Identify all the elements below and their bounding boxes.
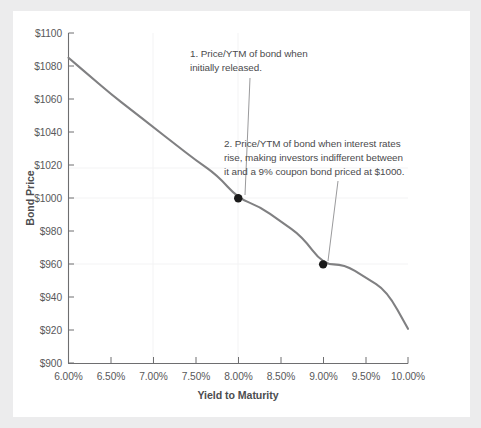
x-tick-label: 6.50%: [97, 371, 125, 382]
y-axis-ticks: [69, 33, 75, 363]
x-tick-label: 7.50%: [182, 371, 210, 382]
annotation-1: 1. Price/YTM of bond when initially rele…: [190, 48, 308, 73]
chart-canvas: $1100 $1080 $1060 $1040 $1020 $1000 $980…: [0, 0, 481, 428]
x-tick-label: 9.50%: [352, 371, 380, 382]
y-tick-label: $1100: [35, 28, 63, 39]
y-tick-label: $1020: [34, 160, 62, 171]
y-tick-label: $1080: [34, 61, 62, 72]
annotation-2-line: 2. Price/YTM of bond when interest rates: [224, 138, 401, 149]
x-tick-label: 7.00%: [139, 371, 167, 382]
x-tick-label: 6.00%: [54, 371, 82, 382]
y-tick-label: $1000: [34, 193, 62, 204]
bond-price-yield-chart: $1100 $1080 $1060 $1040 $1020 $1000 $980…: [0, 0, 481, 428]
annotation-1-line: initially released.: [190, 62, 262, 73]
annotation-1-line: 1. Price/YTM of bond when: [190, 48, 308, 59]
leader-line-annotation-1: [245, 78, 250, 195]
leader-line-annotation-2: [328, 181, 338, 261]
annotation-2: 2. Price/YTM of bond when interest rates…: [224, 138, 404, 177]
x-axis-title: Yield to Maturity: [197, 389, 278, 401]
x-tick-label: 8.00%: [224, 371, 252, 382]
annotation-2-line: it and a 9% coupon bond priced at $1000.: [224, 166, 404, 177]
y-axis-tick-labels: $1100 $1080 $1060 $1040 $1020 $1000 $980…: [34, 28, 62, 369]
y-tick-label: $980: [40, 226, 63, 237]
x-tick-label: 8.50%: [267, 371, 295, 382]
y-tick-label: $960: [40, 259, 63, 270]
x-tick-label: 9.00%: [309, 371, 337, 382]
y-tick-label: $1040: [34, 127, 62, 138]
initial-price-point: [234, 194, 242, 202]
y-axis-title: Bond Price: [24, 170, 36, 226]
x-axis-ticks: [69, 357, 409, 364]
x-tick-label: 10.00%: [391, 371, 425, 382]
x-axis-tick-labels: 6.00% 6.50% 7.00% 7.50% 8.00% 8.50% 9.00…: [54, 371, 425, 382]
risen-rates-price-point: [319, 260, 327, 268]
data-point-markers: [234, 194, 327, 268]
y-tick-label: $900: [40, 358, 63, 369]
annotation-2-line: rise, making investors indifferent betwe…: [224, 152, 403, 163]
y-tick-label: $920: [40, 325, 63, 336]
screenshot-root: $1100 $1080 $1060 $1040 $1020 $1000 $980…: [0, 0, 481, 428]
y-tick-label: $940: [40, 292, 63, 303]
y-tick-label: $1060: [34, 94, 62, 105]
